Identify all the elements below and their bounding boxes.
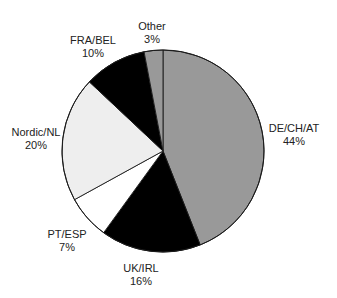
slice-label-percent: 16% (123, 275, 158, 288)
slice-label-percent: 10% (70, 47, 116, 60)
slice-label-name: DE/CH/AT (269, 122, 320, 135)
slice-label: FRA/BEL10% (70, 34, 116, 60)
slice-label-name: Other (138, 20, 166, 33)
slice-label-name: Nordic/NL (12, 126, 61, 139)
slice-label-name: PT/ESP (47, 228, 86, 241)
slice-label-percent: 44% (269, 135, 320, 148)
slice-label-percent: 7% (47, 241, 86, 254)
slice-label: UK/IRL16% (123, 262, 158, 288)
slice-label: DE/CH/AT44% (269, 122, 320, 148)
slice-label-name: UK/IRL (123, 262, 158, 275)
slice-label: PT/ESP7% (47, 228, 86, 254)
slice-label-percent: 3% (138, 33, 166, 46)
slice-label: Other3% (138, 20, 166, 46)
slice-label-name: FRA/BEL (70, 34, 116, 47)
slice-label-percent: 20% (12, 139, 61, 152)
slice-label: Nordic/NL20% (12, 126, 61, 152)
